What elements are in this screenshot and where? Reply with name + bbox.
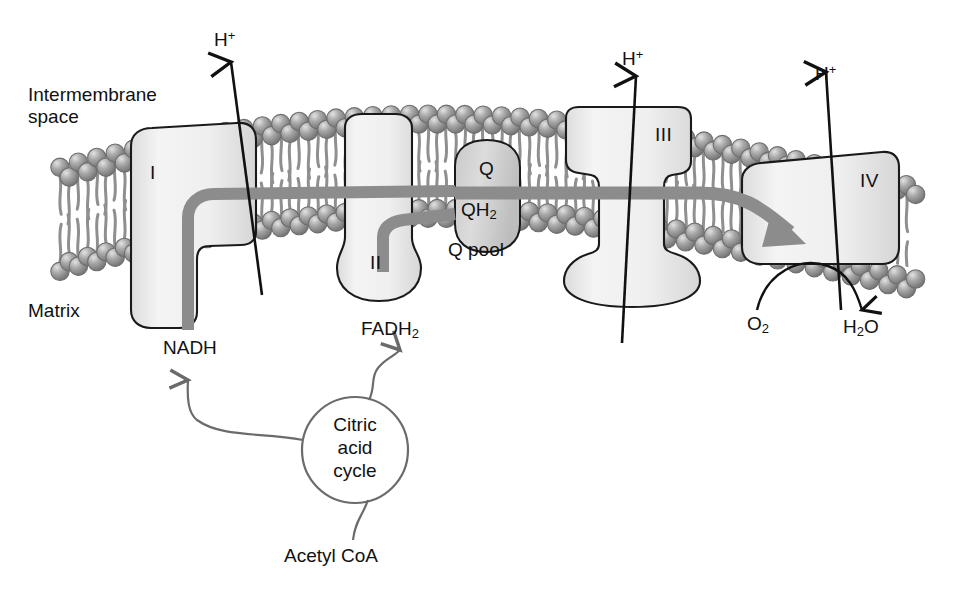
qh2-label: QH2 bbox=[461, 199, 497, 223]
cycle-line-3: cycle bbox=[305, 460, 405, 483]
q-label: Q bbox=[479, 158, 494, 180]
figure-canvas: Intermembrane space Matrix I II III IV Q… bbox=[0, 0, 970, 596]
fadh2-label: FADH2 bbox=[361, 318, 419, 342]
lipid-tail bbox=[68, 215, 69, 253]
lipid-tail bbox=[87, 210, 88, 248]
acetyl-coa-label: Acetyl CoA bbox=[284, 545, 378, 567]
lipid-tail bbox=[445, 124, 446, 162]
lipid-tail bbox=[77, 219, 78, 257]
lipid-head bbox=[906, 185, 924, 203]
complex-ii-label: II bbox=[370, 252, 382, 274]
lipid-tail bbox=[114, 210, 115, 248]
q-pool-label: Q pool bbox=[448, 239, 504, 261]
arrow-cycle-to-nadh bbox=[188, 380, 303, 440]
lipid-tail bbox=[556, 129, 557, 167]
proton-label-complex-i: H+ bbox=[214, 28, 235, 51]
lipid-tail bbox=[317, 129, 318, 167]
citric-acid-cycle-text: Citric acid cycle bbox=[305, 414, 405, 482]
lipid-tail bbox=[703, 150, 704, 188]
complex-i-label: I bbox=[150, 162, 156, 184]
complex-iii-label: III bbox=[655, 124, 672, 146]
lipid-tail bbox=[566, 168, 567, 206]
lipid-tail bbox=[97, 215, 98, 253]
line-acetylcoa-to-cycle bbox=[353, 500, 368, 540]
label-intermembrane-space: Intermembrane space bbox=[28, 84, 157, 129]
lipid-tail bbox=[914, 204, 915, 242]
arrow-cycle-to-fadh2 bbox=[369, 350, 400, 400]
lipid-tail bbox=[124, 201, 125, 239]
lipid-tail bbox=[105, 205, 106, 243]
lipid-tail bbox=[722, 154, 723, 192]
lipid-tail bbox=[281, 181, 282, 219]
lipid-head bbox=[906, 270, 924, 288]
oxygen-label: O2 bbox=[747, 313, 769, 337]
complex-iv-label: IV bbox=[860, 170, 879, 192]
lipid-tail bbox=[326, 167, 327, 205]
proton-label-complex-iv: H+ bbox=[815, 62, 836, 85]
lipid-tail bbox=[740, 157, 741, 195]
nadh-label: NADH bbox=[163, 337, 217, 359]
lipid-tail bbox=[914, 232, 915, 270]
proton-label-complex-iii: H+ bbox=[622, 47, 643, 70]
label-matrix: Matrix bbox=[28, 300, 80, 322]
cycle-line-1: Citric bbox=[305, 414, 405, 437]
water-label: H2O bbox=[843, 316, 879, 340]
cycle-line-2: acid bbox=[305, 437, 405, 460]
